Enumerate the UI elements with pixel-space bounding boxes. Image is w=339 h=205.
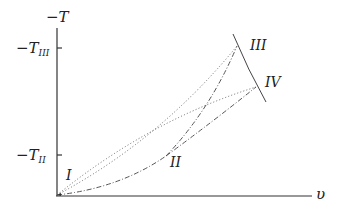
- y-tick-label-t2-sub: II: [38, 155, 47, 165]
- point-label-I: I: [65, 167, 72, 183]
- y-tick-label-t3-main: −T: [16, 39, 40, 57]
- path-I-II-dashdot: [57, 156, 166, 195]
- point-label-II: II: [169, 154, 182, 170]
- y-tick-label-t3-sub: III: [38, 48, 50, 58]
- y-tick-label-t2: −TII: [16, 146, 46, 165]
- thermodynamic-path-diagram: −T υ −TIII −TII I II III IV: [0, 0, 339, 205]
- point-label-III: III: [249, 37, 267, 53]
- path-I-IV-dotted: [57, 87, 256, 195]
- path-II-III-dashdot: [166, 46, 237, 156]
- y-axis-label: −T: [46, 8, 70, 26]
- y-tick-label-t3: −TIII: [16, 39, 50, 58]
- y-tick-label-t2-main: −T: [16, 146, 40, 164]
- path-I-III-dotted: [57, 46, 237, 195]
- point-label-IV: IV: [264, 74, 283, 90]
- x-axis-label: υ: [316, 185, 325, 203]
